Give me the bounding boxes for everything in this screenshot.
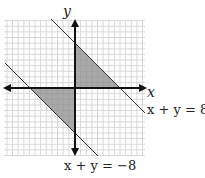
line-label-x-plus-y-equals-neg-8: x + y = −8 xyxy=(64,158,136,173)
x-axis-right-arrow-icon xyxy=(139,84,147,92)
y-axis-down-arrow-icon xyxy=(71,148,79,156)
line-label-x-plus-y-equals-8: x + y = 8 xyxy=(147,102,205,117)
coordinate-plane: y x x + y = 8 x + y = −8 xyxy=(0,0,205,178)
x-axis-label: x xyxy=(147,84,155,100)
y-axis-label: y xyxy=(62,3,72,19)
